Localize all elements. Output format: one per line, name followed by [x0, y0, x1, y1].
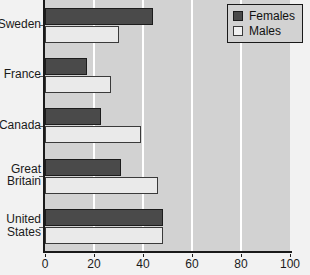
bar-females [45, 159, 121, 176]
y-axis-label: Sweden [0, 18, 41, 31]
x-axis-line [43, 251, 292, 253]
legend: Females Males [227, 4, 303, 43]
x-tick-mark [241, 254, 242, 257]
x-tick-mark [94, 254, 95, 257]
bar-group [45, 50, 290, 100]
y-axis-label: France [4, 68, 41, 81]
y-tick-mark [39, 76, 43, 77]
legend-label-females: Females [249, 9, 295, 23]
x-tick-label: 80 [234, 257, 247, 271]
bar-males [45, 126, 141, 143]
bar-females [45, 8, 153, 25]
x-tick-mark [192, 254, 193, 257]
bar-males [45, 76, 111, 93]
bar-females [45, 58, 87, 75]
bar-group [45, 101, 290, 151]
bar-group [45, 202, 290, 252]
x-tick-mark [290, 254, 291, 257]
y-axis-label: Canada [0, 119, 41, 132]
legend-swatch-males-icon [233, 26, 243, 36]
x-tick-label: 60 [185, 257, 198, 271]
y-tick-mark [39, 25, 43, 26]
bar-females [45, 108, 101, 125]
legend-item-females: Females [233, 8, 295, 23]
x-tick-label: 100 [280, 257, 300, 271]
y-axis-label: Great Britain [7, 163, 41, 188]
bar-males [45, 177, 158, 194]
bar-males [45, 26, 119, 43]
y-axis-label: United States [6, 213, 41, 238]
bar-chart: SwedenFranceCanadaGreat BritainUnited St… [0, 0, 310, 275]
legend-item-males: Males [233, 23, 295, 38]
bar-females [45, 209, 163, 226]
x-tick-label: 20 [87, 257, 100, 271]
x-tick-label: 40 [136, 257, 149, 271]
x-tick-mark [143, 254, 144, 257]
legend-swatch-females-icon [233, 11, 243, 21]
x-tick-label: 0 [42, 257, 49, 271]
y-tick-mark [39, 176, 43, 177]
bar-males [45, 227, 163, 244]
bar-group [45, 151, 290, 201]
y-axis-line [43, 0, 45, 253]
y-tick-mark [39, 126, 43, 127]
y-tick-mark [39, 227, 43, 228]
x-axis-ticks: 020406080100 [0, 254, 310, 275]
x-tick-mark [45, 254, 46, 257]
legend-label-males: Males [249, 24, 281, 38]
y-axis-labels: SwedenFranceCanadaGreat BritainUnited St… [0, 0, 41, 252]
